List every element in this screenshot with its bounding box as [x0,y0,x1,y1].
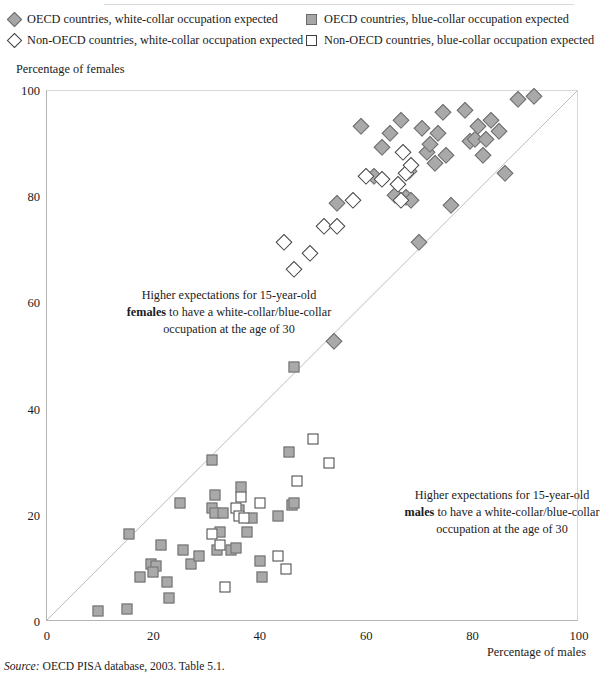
annotation-females-line3: occupation at the age of 30 [163,322,295,336]
data-point-square-filled [236,481,247,492]
data-point-diamond-open [398,146,410,158]
legend: OECD countries, white-collar occupation … [0,12,598,56]
data-point-diamond-filled [432,128,444,140]
data-point-square-filled [289,362,300,373]
y-axis-tick: 60 [27,296,40,311]
data-point-diamond-open [376,173,388,185]
square-open-icon [305,34,318,47]
legend-item-nonoecd-white-collar: Non-OECD countries, white-collar occupat… [8,33,303,47]
data-point-diamond-open [305,247,317,259]
data-point-diamond-open [406,160,418,172]
annotation-males: Higher expectations for 15-year-old male… [383,487,605,538]
annotation-males-line2: to have a white-collar/blue-collar [434,505,599,519]
data-point-square-filled [206,455,217,466]
identity-reference-line [47,91,577,620]
data-point-diamond-filled [440,149,452,161]
data-point-diamond-filled [477,149,489,161]
data-point-square-filled [124,529,135,540]
data-point-diamond-filled [355,120,367,132]
x-axis-tick: 40 [254,629,267,644]
data-point-square-filled [230,542,241,553]
x-axis-title: Percentage of males [487,645,586,660]
x-axis-tick: 0 [44,629,50,644]
data-point-diamond-filled [395,114,407,126]
data-point-square-filled [254,555,265,566]
data-point-diamond-filled [331,197,343,209]
data-point-diamond-open [392,178,404,190]
annotation-females-line2: to have a white-collar/blue-collar [166,305,331,319]
data-point-diamond-filled [438,106,450,118]
data-point-diamond-open [331,221,343,233]
legend-item-oecd-blue-collar: OECD countries, blue-collar occupation e… [305,12,569,26]
diamond-open-icon [8,34,21,47]
data-point-square-open [292,476,303,487]
top-divider-rule [104,4,574,5]
data-point-diamond-filled [472,120,484,132]
data-point-diamond-filled [424,138,436,150]
diamond-filled-icon [8,13,21,26]
y-axis-tick: 40 [27,402,40,417]
x-axis-tick: 100 [570,629,589,644]
data-point-diamond-filled [376,141,388,153]
x-axis-tick: 80 [466,629,479,644]
data-point-square-filled [209,489,220,500]
legend-item-nonoecd-blue-collar: Non-OECD countries, blue-collar occupati… [305,33,594,47]
data-point-square-filled [92,606,103,617]
data-point-diamond-open [347,194,359,206]
data-point-diamond-open [289,263,301,275]
data-point-diamond-filled [459,104,471,116]
legend-label: Non-OECD countries, white-collar occupat… [27,33,303,47]
data-point-diamond-filled [384,128,396,140]
data-point-square-open [238,513,249,524]
data-point-square-filled [273,510,284,521]
data-point-square-filled [148,566,159,577]
scatter-plot-area: 020406080100 020406080100 Higher expecta… [46,90,578,621]
legend-item-oecd-white-collar: OECD countries, white-collar occupation … [8,12,278,26]
data-point-diamond-filled [416,122,428,134]
legend-label: Non-OECD countries, blue-collar occupati… [324,33,594,47]
y-axis-tick: 80 [27,190,40,205]
data-point-diamond-open [318,221,330,233]
data-point-square-filled [257,571,268,582]
data-point-diamond-filled [446,199,458,211]
data-point-diamond-open [395,194,407,206]
y-axis-tick: 100 [21,84,40,99]
annotation-males-bold: males [405,505,435,519]
data-point-square-open [281,563,292,574]
data-point-square-filled [164,593,175,604]
x-axis-tick: 60 [360,629,373,644]
data-point-square-filled [284,447,295,458]
data-point-square-filled [177,545,188,556]
data-point-square-filled [161,577,172,588]
data-point-diamond-filled [512,93,524,105]
data-point-square-filled [193,550,204,561]
data-point-diamond-open [360,170,372,182]
data-point-square-filled [135,571,146,582]
legend-label: OECD countries, white-collar occupation … [27,12,278,26]
annotation-females-bold: females [127,305,166,319]
data-point-square-open [254,497,265,508]
data-point-diamond-filled [480,133,492,145]
data-point-square-filled [217,508,228,519]
source-text: OECD PISA database, 2003. Table 5.1. [40,660,225,673]
legend-label: OECD countries, blue-collar occupation e… [324,12,569,26]
annotation-females-line1: Higher expectations for 15-year-old [142,288,317,302]
data-point-square-open [206,529,217,540]
annotation-females: Higher expectations for 15-year-old fema… [113,287,345,338]
data-point-square-filled [121,603,132,614]
y-axis-tick: 20 [27,508,40,523]
square-filled-icon [305,13,318,26]
source-note: Source: OECD PISA database, 2003. Table … [4,660,225,673]
y-axis-tick: 0 [34,615,40,630]
y-axis-title: Percentage of females [16,62,125,77]
data-point-diamond-filled [499,168,511,180]
x-axis-tick: 20 [147,629,160,644]
data-point-square-open [214,540,225,551]
data-point-square-filled [289,497,300,508]
annotation-males-line1: Higher expectations for 15-year-old [415,488,590,502]
data-point-square-filled [156,540,167,551]
data-point-square-open [236,492,247,503]
data-point-square-filled [241,526,252,537]
data-point-diamond-open [278,237,290,249]
data-point-square-open [323,457,334,468]
